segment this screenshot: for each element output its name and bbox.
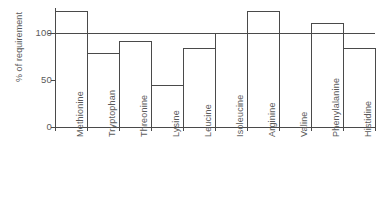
x-label-lysine: Lysine — [171, 110, 181, 137]
bars-group — [55, 11, 375, 127]
plot-area — [0, 0, 387, 223]
x-label-methionine: Methionine — [75, 91, 85, 137]
x-label-tryptophan: Tryptophan — [107, 90, 117, 137]
x-label-valine: Valine — [299, 111, 309, 137]
x-label-arginine: Arginine — [267, 102, 277, 137]
amino-acid-requirement-chart: % of requirement 100 50 0 MethionineTryp… — [0, 0, 387, 223]
x-label-leucine: Leucine — [203, 104, 213, 137]
x-label-phenylalanine: Phenylalanine — [331, 78, 341, 137]
x-label-threonine: Threonine — [139, 95, 149, 137]
x-label-histidine: Histidine — [363, 101, 373, 137]
x-label-isoleucine: Isoleucine — [235, 94, 245, 137]
